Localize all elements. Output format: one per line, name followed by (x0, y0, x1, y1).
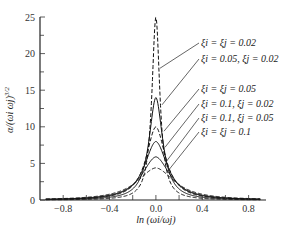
x-tick-label: −0.4 (100, 203, 118, 214)
y-tick-label: 20 (25, 48, 35, 59)
legend-label: ξi = 0.05, ξj = 0.02 (201, 53, 279, 65)
legend-leader-line (167, 132, 199, 172)
y-tick-label: 25 (25, 12, 35, 23)
legend-label: ξi = 0.1, ξj = 0.02 (201, 98, 274, 110)
series-curve (46, 142, 260, 200)
y-axis-title-exponent: 3/2 (3, 87, 11, 97)
series-curve (46, 127, 260, 200)
x-tick-label: 0.0 (150, 203, 163, 214)
x-tick-label: 0.4 (196, 203, 209, 214)
x-tick-label: −0.8 (54, 203, 72, 214)
y-axis-title-group: α/(ωi ωj)3/2 (3, 87, 16, 133)
legend: ξi = ξj = 0.02ξi = 0.05, ξj = 0.02ξi = ξ… (160, 37, 279, 172)
y-tick-label: 10 (25, 121, 35, 132)
svg-text:α/(ωi ωj)3/2: α/(ωi ωj)3/2 (3, 87, 16, 133)
x-tick-label: 0.8 (242, 203, 255, 214)
y-tick-label: 0 (30, 195, 35, 206)
legend-leader-line (162, 59, 199, 105)
legend-label: ξi = ξj = 0.02 (201, 37, 256, 49)
x-axis-title: ln (ωi/ωj) (136, 214, 176, 226)
legend-label: ξi = 0.1, ξj = 0.05 (201, 112, 274, 124)
legend-label: ξi = ξj = 0.1 (201, 126, 251, 138)
legend-label: ξi = ξj = 0.05 (201, 83, 256, 95)
series-curve (46, 157, 260, 199)
y-axis-ticks: 0510152025 (25, 12, 45, 206)
y-axis-title: α/(ωi ωj) (4, 95, 16, 133)
y-tick-label: 15 (25, 85, 35, 96)
y-tick-label: 5 (30, 158, 35, 169)
legend-leader-line (160, 43, 199, 68)
chart: 0510152025 −0.8−0.40.00.40.8 ξi = ξj = 0… (0, 0, 281, 237)
series-curve (46, 168, 260, 199)
